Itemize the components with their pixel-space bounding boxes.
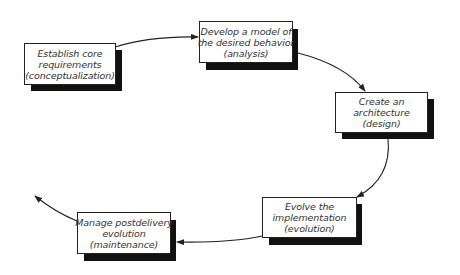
node-label-line: Evolve the xyxy=(285,201,334,212)
node-label-line: Manage postdelivery xyxy=(75,217,173,228)
node-label-line: (conceptualization) xyxy=(25,70,115,81)
arrow-conceptualization-to-analysis xyxy=(115,37,198,47)
node-label-line: (evolution) xyxy=(284,223,334,234)
node-label-line: (design) xyxy=(362,118,400,129)
node-label-line: (analysis) xyxy=(224,48,269,59)
arrow-analysis-to-design xyxy=(298,53,365,91)
node-label-line: Create an xyxy=(359,96,405,107)
node-label-line: (maintenance) xyxy=(90,239,158,250)
arrow-design-to-evolution xyxy=(357,139,388,197)
node-label-line: the desired behavior xyxy=(198,37,295,48)
node-box: Establish core requirements (conceptuali… xyxy=(24,43,116,85)
node-label-line: requirements xyxy=(39,59,102,70)
node-box: Develop a model of the desired behavior … xyxy=(199,21,293,63)
node-label-line: architecture xyxy=(353,107,410,118)
node-box: Create an architecture (design) xyxy=(335,92,428,133)
node-label-line: implementation xyxy=(273,212,347,223)
node-box: Manage postdelivery evolution (maintenan… xyxy=(77,212,171,254)
arrow-evolution-to-maintenance xyxy=(177,236,262,242)
arrow-maintenance-outgoing xyxy=(35,196,77,221)
node-box: Evolve the implementation (evolution) xyxy=(262,197,357,238)
node-label-line: evolution xyxy=(102,228,145,239)
node-label-line: Establish core xyxy=(37,48,102,59)
node-label-line: Develop a model of xyxy=(201,26,292,37)
